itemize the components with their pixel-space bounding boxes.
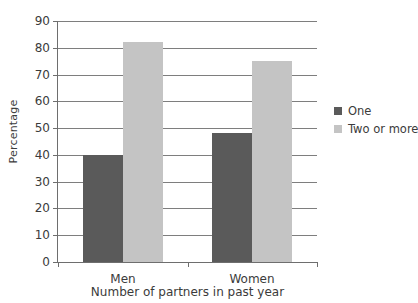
y-tick-mark bbox=[53, 128, 58, 129]
y-tick-label: 50 bbox=[35, 121, 50, 135]
x-tick-mark bbox=[58, 262, 59, 267]
plot-area: 0102030405060708090MenWomen bbox=[58, 21, 317, 262]
bar bbox=[212, 133, 252, 262]
y-tick-label: 80 bbox=[35, 41, 50, 55]
y-axis-title: Percentage bbox=[2, 0, 26, 262]
legend-label: One bbox=[348, 104, 371, 118]
y-tick-mark bbox=[53, 21, 58, 22]
bar bbox=[83, 155, 123, 262]
y-tick-mark bbox=[53, 155, 58, 156]
y-tick-mark bbox=[53, 182, 58, 183]
x-tick-mark bbox=[317, 262, 318, 267]
legend-item[interactable]: Two or more bbox=[334, 120, 418, 138]
x-category-label: Men bbox=[110, 272, 135, 286]
y-tick-label: 60 bbox=[35, 94, 50, 108]
y-tick-label: 20 bbox=[35, 201, 50, 215]
y-tick-mark bbox=[53, 75, 58, 76]
chart-legend: OneTwo or more bbox=[334, 102, 418, 138]
y-tick-label: 0 bbox=[42, 255, 50, 269]
x-axis-title: Number of partners in past year bbox=[58, 285, 317, 299]
gridline bbox=[58, 48, 317, 49]
legend-item[interactable]: One bbox=[334, 102, 418, 120]
legend-swatch-icon bbox=[334, 125, 342, 133]
gridline bbox=[58, 21, 317, 22]
x-axis-line bbox=[57, 262, 317, 263]
bar-chart: Percentage 0102030405060708090MenWomen N… bbox=[0, 0, 418, 303]
y-axis-line bbox=[57, 21, 58, 262]
plot-canvas: 0102030405060708090MenWomen bbox=[58, 21, 317, 262]
legend-swatch-icon bbox=[334, 107, 342, 115]
y-tick-mark bbox=[53, 208, 58, 209]
y-tick-mark bbox=[53, 48, 58, 49]
y-tick-label: 90 bbox=[35, 14, 50, 28]
y-tick-label: 40 bbox=[35, 148, 50, 162]
x-category-label: Women bbox=[229, 272, 274, 286]
y-tick-label: 70 bbox=[35, 68, 50, 82]
y-axis-title-text: Percentage bbox=[8, 99, 21, 163]
bar bbox=[252, 61, 292, 262]
y-tick-label: 30 bbox=[35, 175, 50, 189]
legend-label: Two or more bbox=[348, 122, 418, 136]
y-tick-label: 10 bbox=[35, 228, 50, 242]
bar bbox=[123, 42, 163, 262]
y-tick-mark bbox=[53, 235, 58, 236]
y-tick-mark bbox=[53, 101, 58, 102]
x-tick-mark bbox=[188, 262, 189, 267]
